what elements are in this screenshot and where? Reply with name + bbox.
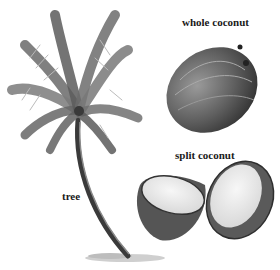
split-coconut-left (137, 169, 209, 240)
whole-coconut (150, 30, 275, 151)
split-coconut-right (194, 150, 280, 250)
label-whole-coconut: whole coconut (182, 16, 249, 28)
label-tree: tree (62, 190, 80, 202)
label-split-coconut: split coconut (175, 149, 235, 161)
palm-fronds (12, 15, 138, 150)
illustration-canvas (0, 0, 280, 270)
coconut-illustration: whole coconut split coconut tree (0, 0, 280, 270)
